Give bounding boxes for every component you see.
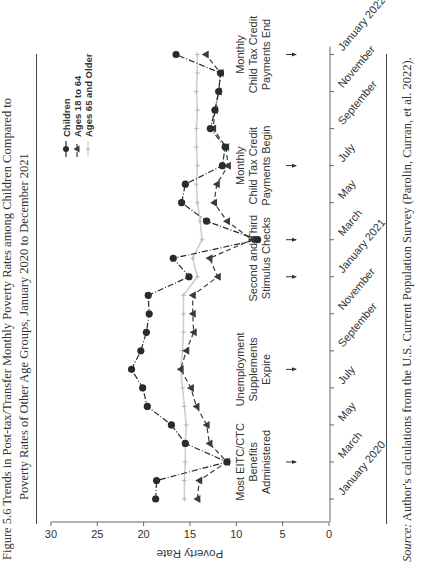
triangle-marker-icon <box>189 291 196 299</box>
annotation-text: Monthly <box>234 146 246 185</box>
circle-marker-icon <box>145 292 152 299</box>
circle-marker-icon <box>137 347 144 354</box>
plus-marker-icon <box>194 89 199 94</box>
plus-marker-icon <box>195 52 200 57</box>
circle-marker-icon <box>217 69 224 76</box>
source-label: Source: <box>400 524 414 562</box>
triangle-marker-icon <box>210 199 217 207</box>
legend-label: Children <box>61 98 72 137</box>
triangle-marker-icon <box>203 421 210 429</box>
x-tick-label: July <box>335 363 357 386</box>
plus-marker-icon <box>194 126 199 131</box>
plus-marker-icon <box>184 422 189 427</box>
circle-marker-icon <box>207 125 214 132</box>
arrow-head-icon <box>292 460 297 464</box>
circle-marker-icon <box>185 273 192 280</box>
circle-marker-icon <box>153 477 160 484</box>
annotation-text: Most EITC/CTC <box>234 423 246 501</box>
circle-marker-icon <box>203 218 210 225</box>
plus-marker-icon <box>195 108 200 113</box>
y-tick-label: 25 <box>91 528 103 540</box>
y-tick-label: 30 <box>45 528 57 540</box>
circle-marker-icon <box>223 458 230 465</box>
legend-plus-icon <box>86 147 90 151</box>
plus-marker-icon <box>180 385 185 390</box>
circle-marker-icon <box>139 384 146 391</box>
y-tick-label: 10 <box>230 528 242 540</box>
y-tick-label: 5 <box>280 528 286 540</box>
legend-label: Ages 65 and Older <box>83 53 94 137</box>
triangle-marker-icon <box>187 384 194 392</box>
circle-marker-icon <box>144 403 151 410</box>
y-tick-label: 0 <box>326 528 332 540</box>
circle-marker-icon <box>146 310 153 317</box>
legend-label: Ages 18 to 64 <box>72 75 83 137</box>
plus-marker-icon <box>182 404 187 409</box>
chart-legend: ChildrenAges 18 to 64Ages 65 and Older <box>61 53 94 157</box>
annotation-text: Benefits <box>247 442 259 482</box>
triangle-marker-icon <box>205 254 212 262</box>
annotation-text: Child Tax Credit <box>247 127 259 204</box>
triangle-marker-icon <box>223 217 230 225</box>
annotation-text: Administered <box>260 430 272 494</box>
circle-marker-icon <box>168 421 175 428</box>
chart-axes: 051015202530Poverty RateJanuary 2020Marc… <box>45 0 388 560</box>
circle-marker-icon <box>128 366 135 373</box>
annotation-text: Child Tax Credit <box>247 16 259 93</box>
circle-marker-icon <box>222 144 229 151</box>
triangle-marker-icon <box>195 476 202 484</box>
x-tick-label: May <box>335 399 358 423</box>
circle-marker-icon <box>211 106 218 113</box>
plus-marker-icon <box>194 145 199 150</box>
triangle-marker-icon <box>193 495 200 503</box>
event-annotations: Most EITC/CTCBenefitsAdministeredUnemplo… <box>234 16 297 501</box>
plus-marker-icon <box>195 71 200 76</box>
y-axis-title: Poverty Rate <box>157 548 223 560</box>
arrow-head-icon <box>292 53 297 57</box>
plus-marker-icon <box>194 182 199 187</box>
y-tick-label: 20 <box>137 528 149 540</box>
arrow-head-icon <box>292 275 297 279</box>
plus-marker-icon <box>181 330 186 335</box>
x-tick-label: May <box>335 177 358 201</box>
y-tick-label: 15 <box>184 528 196 540</box>
annotation-text: Payments Begin <box>260 126 272 206</box>
figure-page: Figure 5.6 Trends in Post-tax/Transfer M… <box>0 0 434 562</box>
line-chart: 051015202530Poverty RateJanuary 2020Marc… <box>0 0 434 562</box>
arrow-head-icon <box>292 164 297 168</box>
x-tick-label: March <box>335 429 364 460</box>
x-tick-label: July <box>335 141 357 164</box>
plus-marker-icon <box>183 459 188 464</box>
plus-marker-icon <box>182 478 187 483</box>
circle-marker-icon <box>254 236 261 243</box>
circle-marker-icon <box>182 440 189 447</box>
source-text: Author's calculations from the U.S. Curr… <box>400 57 414 523</box>
annotation-text: Unemployment <box>234 332 246 406</box>
circle-marker-icon <box>178 199 185 206</box>
x-tick-label: January 2022 <box>335 0 387 53</box>
plus-marker-icon <box>195 200 200 205</box>
bottom-rule <box>386 54 387 524</box>
annotation-text: Expire <box>260 354 272 385</box>
annotation-text: Supplements <box>247 337 259 402</box>
annotation-text: Stimulus Checks <box>260 217 272 299</box>
circle-marker-icon <box>152 495 159 502</box>
annotation-text: Second and Third <box>247 215 259 302</box>
annotation-text: Monthly <box>234 35 246 74</box>
circle-marker-icon <box>219 162 226 169</box>
legend-circle-icon <box>63 146 69 152</box>
x-tick-label: March <box>335 207 364 238</box>
circle-marker-icon <box>143 329 150 336</box>
plus-marker-icon <box>181 311 186 316</box>
circle-marker-icon <box>215 88 222 95</box>
annotation-text: Payments End <box>260 19 272 91</box>
triangle-marker-icon <box>202 51 209 59</box>
source-note: Source: Author's calculations from the U… <box>400 57 415 562</box>
circle-marker-icon <box>170 255 177 262</box>
plus-marker-icon <box>198 219 203 224</box>
triangle-marker-icon <box>214 273 221 281</box>
arrow-head-icon <box>292 238 297 242</box>
plus-marker-icon <box>182 497 187 502</box>
circle-marker-icon <box>172 51 179 58</box>
circle-marker-icon <box>182 181 189 188</box>
